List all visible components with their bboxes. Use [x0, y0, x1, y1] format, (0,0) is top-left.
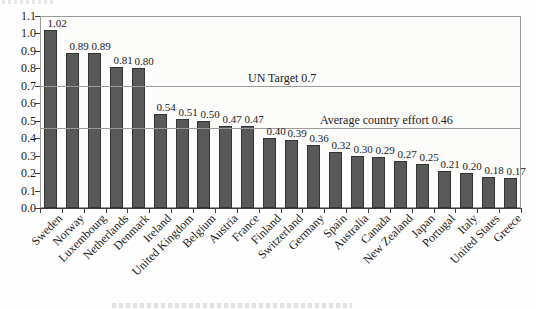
x-axis-tick — [346, 209, 347, 213]
reference-line-label: UN Target 0.7 — [248, 71, 316, 85]
cropped-text-artifact-top — [2, 0, 56, 4]
bar-value-label: 0.47 — [238, 113, 270, 125]
bar-germany — [307, 145, 320, 208]
bar-norway — [66, 53, 79, 208]
cropped-caption-artifact-bottom — [112, 303, 352, 308]
x-axis-tick — [237, 209, 238, 213]
bar-value-label: 0.80 — [128, 55, 160, 67]
bar-new-zealand — [394, 161, 407, 208]
x-axis-tick — [259, 209, 260, 213]
x-axis-tick — [302, 209, 303, 213]
bar-australia — [351, 156, 364, 208]
x-axis-tick — [455, 209, 456, 213]
y-axis-label: 0.1 — [4, 184, 36, 198]
bar-finland — [263, 138, 276, 208]
reference-line — [41, 86, 520, 87]
bar-belgium — [197, 121, 210, 208]
x-axis-tick — [193, 209, 194, 213]
bar-united-kingdom — [176, 119, 189, 208]
x-axis-tick — [499, 209, 500, 213]
x-axis-tick — [127, 209, 128, 213]
bar-value-label: 0.17 — [500, 165, 532, 177]
x-axis-tick — [215, 209, 216, 213]
y-axis-label: 0.3 — [4, 149, 36, 163]
bar-greece — [504, 178, 517, 208]
bar-canada — [372, 157, 385, 208]
x-axis-tick — [477, 209, 478, 213]
x-axis-tick — [412, 209, 413, 213]
y-axis-label: 0.7 — [4, 79, 36, 93]
x-axis-line — [40, 208, 522, 209]
bar-netherlands — [110, 67, 123, 208]
x-axis-tick — [390, 209, 391, 213]
x-axis-tick — [368, 209, 369, 213]
bar-value-label: 1.02 — [41, 17, 73, 29]
aid-bar-chart: 0.00.10.20.30.40.50.60.70.80.91.01.1UN T… — [0, 0, 536, 309]
x-axis-tick — [40, 209, 41, 213]
x-axis-tick — [106, 209, 107, 213]
x-axis-tick — [149, 209, 150, 213]
reference-line-label: Average country effort 0.46 — [320, 113, 453, 127]
bar-switzerland — [285, 140, 298, 208]
y-axis-label: 0.5 — [4, 114, 36, 128]
x-axis-tick — [62, 209, 63, 213]
bar-italy — [460, 173, 473, 208]
x-axis-tick — [434, 209, 435, 213]
y-axis-label: 0.9 — [4, 44, 36, 58]
bar-luxembourg — [88, 53, 101, 208]
bar-denmark — [132, 68, 145, 208]
y-axis-label: 0.8 — [4, 61, 36, 75]
x-axis-tick — [324, 209, 325, 213]
y-axis-label: 0.0 — [4, 201, 36, 215]
y-axis-label: 0.2 — [4, 166, 36, 180]
y-axis-label: 0.4 — [4, 131, 36, 145]
bar-united-states — [482, 177, 495, 208]
bar-japan — [416, 164, 429, 208]
bar-sweden — [44, 30, 57, 208]
bar-value-label: 0.89 — [85, 40, 117, 52]
bar-france — [241, 126, 254, 208]
bar-portugal — [438, 171, 451, 208]
bar-spain — [329, 152, 342, 208]
x-axis-tick — [281, 209, 282, 213]
y-axis-label: 0.6 — [4, 96, 36, 110]
bar-austria — [219, 126, 232, 208]
x-axis-tick — [171, 209, 172, 213]
x-axis-tick — [521, 209, 522, 213]
x-axis-tick — [84, 209, 85, 213]
y-axis-label: 1.1 — [4, 9, 36, 23]
y-axis-label: 1.0 — [4, 26, 36, 40]
